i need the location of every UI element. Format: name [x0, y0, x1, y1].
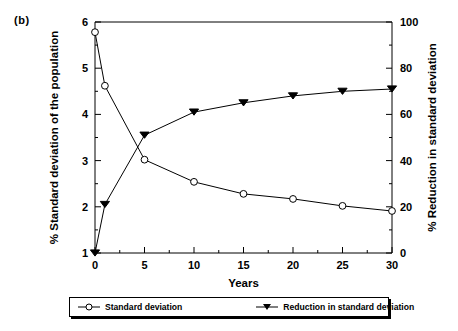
data-point-marker: [191, 178, 198, 185]
y-tick-label-right: 20: [400, 201, 412, 213]
data-point-marker: [240, 190, 247, 197]
data-point-marker: [189, 109, 198, 115]
series-line-1: [95, 89, 392, 253]
y-tick-label-right: 80: [400, 62, 412, 74]
x-tick-label: 5: [141, 259, 147, 271]
data-point-marker: [100, 201, 109, 207]
y-axis-title-right: % Reduction in standard deviation: [426, 43, 438, 232]
data-point-marker: [140, 132, 149, 138]
x-tick-label: 10: [188, 259, 200, 271]
y-tick-label-left: 1: [82, 247, 88, 259]
legend-label: Reduction in standard deviation: [283, 302, 414, 312]
data-point-marker: [92, 29, 99, 36]
data-point-marker: [389, 208, 396, 215]
y-tick-label-left: 6: [82, 16, 88, 28]
series-line-0: [95, 32, 392, 211]
x-tick-label: 25: [336, 259, 348, 271]
y-tick-label-right: 0: [400, 247, 406, 259]
figure-panel: (b) 051015202530123456020406080100Years%…: [0, 0, 458, 331]
x-tick-label: 20: [287, 259, 299, 271]
data-point-marker: [290, 196, 297, 203]
x-tick-label: 30: [386, 259, 398, 271]
x-tick-label: 0: [92, 259, 98, 271]
legend-item-reduction-in-standard-deviation: Reduction in standard deviation: [256, 302, 414, 312]
y-axis-title-left: % Standard deviation of the population: [48, 31, 60, 244]
y-tick-label-left: 5: [82, 62, 88, 74]
y-tick-label-left: 2: [82, 201, 88, 213]
filled-triangle-down-marker-icon: [256, 302, 278, 312]
y-tick-label-right: 40: [400, 155, 412, 167]
x-tick-label: 15: [237, 259, 249, 271]
x-axis-title: Years: [228, 277, 259, 289]
y-tick-label-left: 3: [82, 155, 88, 167]
data-point-marker: [102, 82, 109, 89]
y-tick-label-right: 60: [400, 108, 412, 120]
chart-plot: 051015202530123456020406080100Years% Sta…: [0, 0, 458, 331]
legend-item-standard-deviation: Standard deviation: [78, 302, 182, 312]
y-tick-label-left: 4: [82, 108, 89, 120]
legend-label: Standard deviation: [105, 302, 182, 312]
open-circle-marker-icon: [78, 302, 100, 312]
data-point-marker: [339, 202, 346, 209]
data-point-marker: [141, 156, 148, 163]
y-tick-label-right: 100: [400, 16, 418, 28]
chart-legend: Standard deviation Reduction in standard…: [69, 297, 389, 317]
